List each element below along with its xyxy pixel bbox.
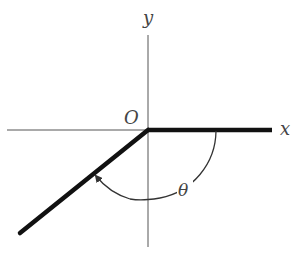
angle-arc-left-of-label [148, 198, 160, 200]
theta-label: θ [178, 180, 188, 200]
y-axis-label: y [142, 7, 154, 28]
terminal-ray [20, 130, 148, 233]
angle-arc-middle [130, 199, 148, 200]
x-axis-label: x [280, 118, 290, 139]
angle-diagram: y x O θ [0, 0, 298, 270]
angle-arc-arrow-segment [96, 176, 130, 199]
origin-label: O [124, 107, 139, 128]
